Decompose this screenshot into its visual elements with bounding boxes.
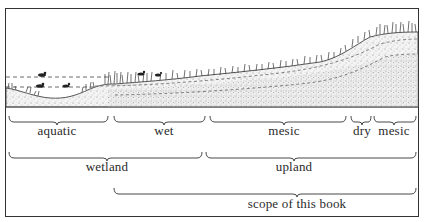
water-body <box>6 77 108 87</box>
zone-label-mesic: mesic <box>268 124 299 137</box>
bracket-row-land-type <box>9 152 416 161</box>
zone-label-wetland: wetland <box>86 160 129 173</box>
zone-label-dry: dry <box>353 124 371 137</box>
landscape-illustration <box>0 0 424 222</box>
zone-label-upland: upland <box>276 160 313 173</box>
zone-label-aquatic: aquatic <box>38 124 77 137</box>
scope-label: scope of this book <box>248 197 347 210</box>
zone-label-mesic-upper: mesic <box>378 124 409 137</box>
zone-label-wet: wet <box>154 124 173 137</box>
